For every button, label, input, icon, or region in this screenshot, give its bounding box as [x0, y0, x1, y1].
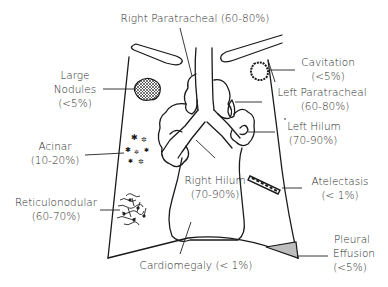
reticulonodular-pattern-icon — [117, 194, 146, 225]
svg-text:✱: ✱ — [131, 133, 138, 142]
large-nodule-icon — [134, 78, 160, 100]
left-clavicle — [221, 35, 282, 62]
pleural-effusion-icon — [266, 242, 298, 258]
label-pleural: Pleural — [334, 233, 370, 245]
label-left-hilum: Left Hilum — [287, 120, 341, 132]
label-atelectasis-pct: (< 1%) — [322, 189, 359, 201]
left-hilum-inner — [240, 125, 248, 134]
right-hilum-inner — [170, 130, 182, 134]
label-effusion: Effusion — [333, 247, 375, 259]
svg-text:✲: ✲ — [138, 158, 144, 166]
cavitation-icon — [251, 62, 268, 80]
left-bronchus-inner — [207, 122, 232, 148]
label-cavitation-pct: (<5%) — [311, 70, 345, 82]
label-left-hilum-pct: (70-90%) — [289, 134, 338, 146]
right-bronchus-inner — [178, 122, 205, 158]
label-reticulonodular-pct: (60-70%) — [32, 210, 81, 222]
label-cardiomegaly: Cardiomegaly (< 1%) — [140, 259, 253, 271]
svg-text:✱: ✱ — [128, 157, 133, 164]
svg-text:✱: ✱ — [144, 146, 149, 153]
right-clavicle — [131, 44, 182, 65]
acinar-pattern-icon: ✱ ✲ ✱ ✲ ✱ ✱ ✲ — [125, 133, 149, 166]
label-right-paratracheal: Right Paratracheal (60-80%) — [121, 12, 270, 24]
label-atelectasis: Atelectasis — [311, 175, 368, 187]
label-left-paratracheal-pct: (60-80%) — [301, 100, 350, 112]
label-large-nodules-1: Large — [60, 69, 89, 81]
svg-text:✱: ✱ — [125, 146, 131, 154]
label-large-nodules-pct: (<5%) — [58, 97, 92, 109]
label-pleural-effusion-pct: (<5%) — [333, 261, 367, 273]
label-large-nodules-2: Nodules — [54, 83, 96, 95]
chest-diagram: ✱ ✲ ✱ ✲ ✱ ✱ ✲ — [0, 0, 388, 287]
svg-text:✲: ✲ — [141, 136, 147, 144]
label-cavitation: Cavitation — [301, 56, 355, 68]
svg-text:✲: ✲ — [134, 148, 139, 155]
label-acinar-pct: (10-20%) — [31, 154, 80, 166]
label-reticulonodular: Reticulonodular — [15, 196, 98, 208]
right-lung-border — [108, 57, 129, 258]
label-acinar: Acinar — [38, 140, 72, 152]
atelectasis-icon — [248, 176, 280, 194]
label-left-paratracheal: Left Paratracheal — [277, 86, 366, 98]
label-right-hilum: Right Hilum — [184, 174, 245, 186]
label-right-hilum-pct: (70-90%) — [191, 188, 240, 200]
trachea-right-wall — [212, 48, 214, 110]
right-hilum-mass — [158, 104, 188, 167]
